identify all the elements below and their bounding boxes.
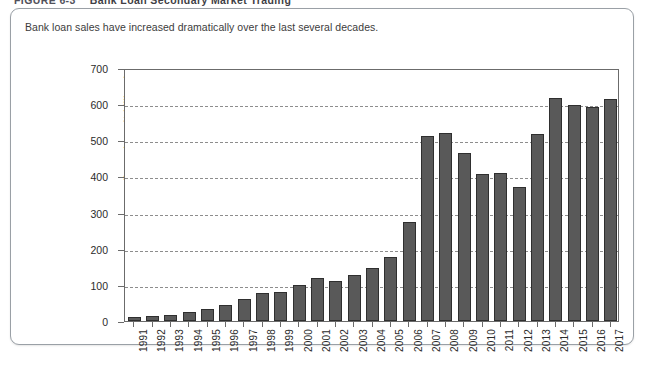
figure-number: FIGURE 6-3 — [14, 0, 76, 6]
x-tick-mark — [317, 322, 318, 327]
bar-chart: Trading Volume ($ billions) 010020030040… — [114, 61, 624, 361]
bar — [256, 293, 269, 321]
x-tick-label: 2010 — [486, 329, 497, 352]
x-tick-label: 1994 — [193, 329, 204, 352]
x-tick-mark — [482, 322, 483, 327]
bar — [128, 317, 141, 321]
x-tick-label: 2007 — [431, 329, 442, 352]
y-tick-label: 500 — [48, 135, 108, 147]
x-tick-label: 2001 — [321, 329, 332, 352]
bar — [568, 105, 581, 321]
x-tick-mark — [133, 322, 134, 327]
x-tick-label: 1991 — [138, 329, 149, 352]
y-tick-label: 200 — [48, 244, 108, 256]
y-tick-label: 600 — [48, 99, 108, 111]
figure-caption: Bank loan sales have increased dramatica… — [25, 21, 378, 33]
x-tick-label: 2004 — [376, 329, 387, 352]
x-tick-label: 2016 — [596, 329, 607, 352]
bar — [403, 222, 416, 321]
figure-panel: Bank loan sales have increased dramatica… — [10, 8, 634, 345]
x-tick-mark — [280, 322, 281, 327]
bar — [146, 316, 159, 321]
x-tick-mark — [372, 322, 373, 327]
x-tick-mark — [463, 322, 464, 327]
y-tick-mark — [118, 141, 124, 142]
x-tick-mark — [225, 322, 226, 327]
x-tick-label: 1992 — [156, 329, 167, 352]
x-tick-label: 2014 — [559, 329, 570, 352]
y-tick-mark — [118, 214, 124, 215]
bar — [458, 153, 471, 321]
x-tick-mark — [188, 322, 189, 327]
x-tick-label: 1995 — [211, 329, 222, 352]
y-tick-mark — [118, 322, 124, 323]
x-tick-mark — [262, 322, 263, 327]
x-tick-label: 2015 — [578, 329, 589, 352]
x-tick-mark — [537, 322, 538, 327]
figure-heading: FIGURE 6-3 Bank Loan Secondary Market Tr… — [14, 0, 291, 7]
x-tick-label: 2011 — [504, 329, 515, 351]
x-tick-label: 2012 — [523, 329, 534, 352]
x-tick-mark — [610, 322, 611, 327]
x-tick-mark — [518, 322, 519, 327]
bar — [329, 281, 342, 321]
x-tick-mark — [335, 322, 336, 327]
x-tick-mark — [152, 322, 153, 327]
x-tick-label: 1998 — [266, 329, 277, 352]
x-tick-label: 1997 — [248, 329, 259, 352]
bar — [183, 312, 196, 321]
bar — [549, 98, 562, 321]
x-tick-mark — [592, 322, 593, 327]
x-tick-label: 2006 — [413, 329, 424, 352]
bar — [274, 292, 287, 321]
x-tick-mark — [353, 322, 354, 327]
y-tick-mark — [118, 105, 124, 106]
figure-title: Bank Loan Secondary Market Trading — [90, 0, 291, 6]
x-tick-label: 2003 — [358, 329, 369, 352]
x-tick-label: 2008 — [449, 329, 460, 352]
bar — [513, 187, 526, 321]
y-tick-label: 700 — [48, 63, 108, 75]
bar-series — [125, 70, 618, 321]
x-tick-label: 1999 — [284, 329, 295, 352]
y-tick-mark — [118, 286, 124, 287]
x-tick-mark — [427, 322, 428, 327]
bar — [348, 275, 361, 321]
x-tick-label: 2002 — [339, 329, 350, 352]
x-tick-mark — [390, 322, 391, 327]
bar — [531, 134, 544, 321]
y-tick-mark — [118, 250, 124, 251]
x-tick-mark — [573, 322, 574, 327]
bar — [586, 107, 599, 321]
x-tick-mark — [408, 322, 409, 327]
bar — [439, 133, 452, 321]
bar — [164, 315, 177, 322]
x-tick-mark — [170, 322, 171, 327]
x-tick-mark — [500, 322, 501, 327]
x-tick-mark — [207, 322, 208, 327]
y-tick-mark — [118, 177, 124, 178]
x-tick-mark — [445, 322, 446, 327]
x-tick-label: 2000 — [303, 329, 314, 352]
x-tick-mark — [555, 322, 556, 327]
y-tick-label: 400 — [48, 171, 108, 183]
x-tick-label: 1996 — [229, 329, 240, 352]
x-tick-mark — [243, 322, 244, 327]
y-tick-mark — [118, 69, 124, 70]
bar — [366, 268, 379, 321]
y-tick-label: 100 — [48, 280, 108, 292]
x-tick-label: 1993 — [174, 329, 185, 352]
bar — [238, 299, 251, 321]
bar — [421, 136, 434, 321]
bar — [201, 309, 214, 321]
y-tick-label: 0 — [48, 316, 108, 328]
x-tick-label: 2005 — [394, 329, 405, 352]
bar — [384, 257, 397, 321]
bar — [293, 285, 306, 321]
x-tick-label: 2017 — [614, 329, 625, 352]
x-tick-label: 2009 — [468, 329, 479, 352]
bar — [604, 99, 617, 321]
bar — [311, 278, 324, 321]
bar — [494, 173, 507, 321]
y-tick-label: 300 — [48, 208, 108, 220]
